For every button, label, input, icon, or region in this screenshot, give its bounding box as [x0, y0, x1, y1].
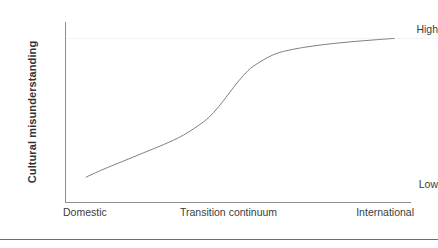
footer-divider-rule	[0, 239, 438, 240]
x-tick-label-transition-continuum: Transition continuum	[180, 206, 277, 218]
x-tick-label-domestic: Domestic	[63, 206, 107, 218]
x-tick-label-international: International	[356, 206, 414, 218]
chart-figure: Cultural misunderstanding High Low Domes…	[0, 0, 438, 248]
sigmoid-curve-line	[86, 38, 394, 177]
footer-clipped-caption	[6, 241, 432, 248]
